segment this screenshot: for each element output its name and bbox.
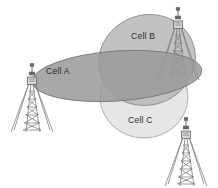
cell-c-label: Cell C (128, 115, 153, 125)
diagram-canvas: Cell A Cell B Cell C (0, 0, 218, 188)
antenna-head-icon (29, 72, 35, 75)
antenna-box-icon (28, 77, 37, 85)
cell-coverage-diagram: Cell A Cell B Cell C (0, 0, 218, 188)
cell-a-label: Cell A (46, 66, 70, 76)
antenna-head-icon (175, 16, 181, 19)
cell-b-label: Cell B (131, 31, 155, 41)
antenna-head-icon (183, 126, 189, 129)
antenna-box-icon (182, 131, 191, 139)
antenna-box-icon (174, 21, 183, 29)
